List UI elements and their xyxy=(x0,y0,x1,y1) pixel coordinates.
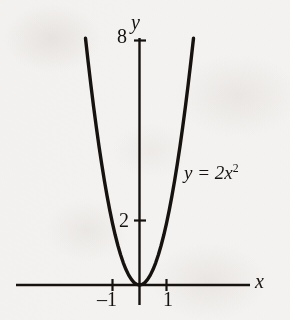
plot-canvas xyxy=(0,0,290,320)
equation-base: y = 2x xyxy=(184,162,233,183)
y-axis-tick-label-2: 2 xyxy=(119,210,129,230)
graph-figure: 8 y 2 –1 1 x y = 2x2 xyxy=(0,0,290,320)
x-axis-label: x xyxy=(255,271,264,291)
x-axis-tick-label-1: 1 xyxy=(163,289,173,309)
x-axis-tick-label-neg1: –1 xyxy=(97,289,117,309)
y-axis-label: y xyxy=(131,12,140,32)
equation-exponent: 2 xyxy=(233,162,239,175)
y-axis-tick-label-8: 8 xyxy=(117,26,127,46)
curve-equation-annotation: y = 2x2 xyxy=(184,163,239,182)
